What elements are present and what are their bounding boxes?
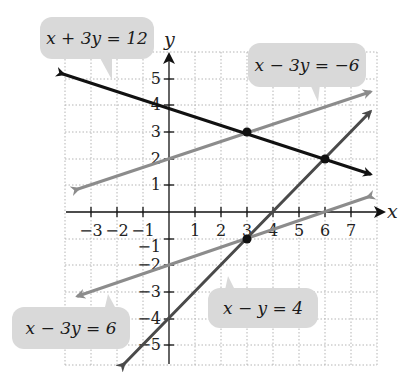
y-tick-label: −3 [137,282,161,301]
x-tick-label: 2 [216,221,226,240]
x-tick-labels: −3 −2 −1 1 2 3 4 5 6 7 [79,221,356,240]
x-tick-label: 7 [346,221,356,240]
y-tick-label: −1 [137,237,161,256]
y-tick-label: −4 [137,309,161,328]
x-tick-label: 6 [320,221,330,240]
line-x-minus-3y-eq-neg6 [78,92,370,189]
x-axis-label: x [387,200,398,222]
point-6-2 [321,155,330,164]
y-tick-label: 5 [151,69,161,88]
x-tick-label: 5 [294,221,304,240]
y-axis-label: y [163,28,175,50]
equation-text: x − 3y = 6 [26,318,117,338]
equation-label-x-minus-3y-eq-6: x − 3y = 6 [12,307,130,349]
equation-text: x + 3y = 12 [46,28,148,48]
y-tick-label: 1 [151,175,161,194]
equation-text: x − y = 4 [223,298,303,318]
x-tick-label: 1 [190,221,200,240]
equation-text: x − 3y = −6 [254,55,359,75]
point-3-3 [243,128,252,137]
y-tick-label: 3 [151,122,161,141]
equation-label-x-plus-3y-eq-12: x + 3y = 12 [40,17,154,59]
x-tick-label: −3 [79,221,103,240]
equation-label-x-minus-y-eq-4: x − y = 4 [208,288,318,328]
x-tick-label: −2 [105,221,129,240]
point-3-neg1 [243,235,252,244]
equation-label-x-minus-3y-eq-neg6: x − 3y = −6 [248,43,366,87]
